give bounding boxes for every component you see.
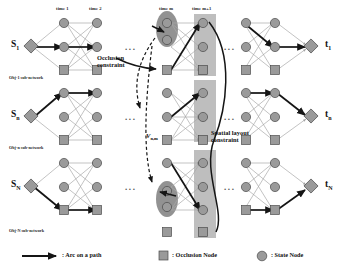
source-sub-N: N bbox=[16, 185, 20, 191]
occlusion-constraint-label: Occlusion constraint bbox=[97, 54, 125, 68]
ellipsis-left-row-3: ... bbox=[125, 182, 137, 192]
source-sub-1: 1 bbox=[16, 45, 19, 51]
target-sub-n: n bbox=[328, 115, 331, 121]
ellipsis-right-row-1: ... bbox=[224, 42, 236, 52]
target-sub-N: N bbox=[328, 185, 332, 191]
subnetwork-caption-obj-N: Obj-N sub-network bbox=[9, 229, 44, 233]
time-label-2: time 2 bbox=[89, 7, 102, 12]
subnetwork-caption-obj-1: Obj-1 sub-network bbox=[9, 76, 43, 80]
ellipsis-left-row-2: ... bbox=[125, 112, 137, 122]
occlusion-constraint-line-2: constraint bbox=[97, 61, 125, 68]
target-node-label-N: tN bbox=[325, 180, 333, 191]
source-node-label-1: S1 bbox=[11, 40, 19, 51]
vertex-subscript: n,m bbox=[150, 136, 158, 141]
occlusion-constraint-curves bbox=[137, 38, 155, 182]
time-label-m: time m bbox=[159, 7, 173, 12]
target-node-label-1: t1 bbox=[325, 40, 331, 51]
source-sub-n: n bbox=[16, 115, 19, 121]
ellipsis-left-row-1: ... bbox=[125, 42, 137, 52]
target-node-label-n: tn bbox=[325, 110, 332, 121]
legend-label-state-node: : State Node bbox=[271, 252, 303, 258]
time-label-m-plus-1: time m+1 bbox=[192, 7, 211, 12]
spatial-layout-constraint-label: Spatial layout constraint bbox=[211, 129, 249, 143]
time-label-1: time 1 bbox=[56, 7, 69, 12]
network-diagram-svg bbox=[0, 0, 345, 274]
target-sub-1: 1 bbox=[328, 45, 331, 51]
ellipsis-right-row-2: ... bbox=[224, 112, 236, 122]
source-node-label-n: Sn bbox=[11, 110, 20, 121]
subnetwork-obj-n bbox=[24, 88, 318, 144]
spatial-constraint-line-2: constraint bbox=[211, 136, 249, 143]
figure-canvas: time 1 time 2 time m time m+1 Obj-1 sub-… bbox=[0, 0, 345, 274]
legend-glyphs bbox=[22, 251, 267, 261]
ellipsis-right-row-3: ... bbox=[224, 182, 236, 192]
vertex-label: Vn,m bbox=[146, 133, 158, 142]
legend-label-arc: : Arc on a path bbox=[62, 252, 101, 258]
source-node-label-N: SN bbox=[11, 180, 21, 191]
occlusion-constraint-line-1: Occlusion bbox=[97, 54, 125, 61]
subnetwork-caption-obj-n: Obj-n sub-network bbox=[9, 146, 43, 150]
legend-label-occlusion-node: : Occlusion Node bbox=[172, 252, 217, 258]
spatial-constraint-line-1: Spatial layout bbox=[211, 129, 249, 136]
